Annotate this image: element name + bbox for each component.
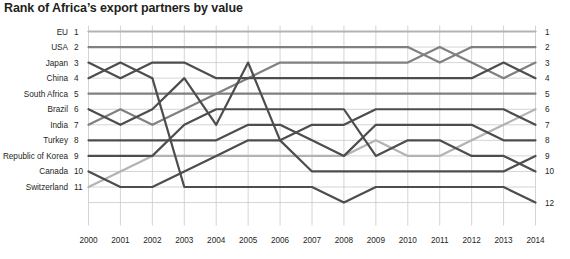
category-rank: 8 — [74, 136, 79, 145]
right-rank-label: 4 — [545, 74, 550, 83]
category-label: Japan — [46, 58, 68, 67]
year-label: 2011 — [431, 236, 449, 245]
year-label: 2014 — [526, 236, 544, 245]
category-rank: 5 — [74, 89, 79, 98]
right-rank-label: 12 — [545, 198, 554, 207]
year-label: 2000 — [79, 236, 97, 245]
year-label: 2002 — [143, 236, 161, 245]
year-label: 2012 — [463, 236, 481, 245]
category-rank: 6 — [74, 105, 79, 114]
year-label: 2006 — [271, 236, 289, 245]
category-rank: 2 — [74, 43, 79, 52]
right-rank-label: 3 — [545, 58, 550, 67]
category-label: Turkey — [43, 136, 68, 145]
category-rank: 1 — [74, 27, 79, 36]
category-label: India — [50, 120, 68, 129]
category-rank: 9 — [74, 151, 79, 160]
right-rank-label: 5 — [545, 89, 550, 98]
rank-chart: Rank of Africa’s export partners by valu… — [0, 0, 570, 259]
category-rank: 11 — [74, 183, 83, 192]
year-label: 2005 — [239, 236, 257, 245]
category-label: EU — [57, 27, 68, 36]
right-rank-label: 7 — [545, 120, 550, 129]
category-label: Republic of Korea — [3, 151, 68, 160]
category-label: Switzerland — [26, 183, 68, 192]
category-rank: 4 — [74, 74, 79, 83]
right-rank-label: 10 — [545, 167, 554, 176]
category-rank: 10 — [74, 167, 83, 176]
year-label: 2010 — [399, 236, 417, 245]
category-label: Brazil — [48, 105, 68, 114]
right-rank-label: 6 — [545, 105, 550, 114]
category-rank: 7 — [74, 120, 79, 129]
year-label: 2004 — [207, 236, 225, 245]
year-label: 2001 — [111, 236, 129, 245]
right-rank-label: 8 — [545, 136, 550, 145]
right-rank-label: 2 — [545, 43, 550, 52]
category-rank: 3 — [74, 58, 79, 67]
year-label: 2007 — [303, 236, 321, 245]
category-label: China — [47, 74, 68, 83]
category-label: Canada — [39, 167, 68, 176]
right-rank-label: 1 — [545, 27, 550, 36]
year-label: 2003 — [175, 236, 193, 245]
year-label: 2008 — [335, 236, 353, 245]
year-label: 2013 — [494, 236, 512, 245]
year-label: 2009 — [367, 236, 385, 245]
category-label: South Africa — [24, 89, 68, 98]
plot-area — [0, 0, 570, 259]
right-rank-label: 9 — [545, 151, 550, 160]
category-label: USA — [51, 43, 68, 52]
